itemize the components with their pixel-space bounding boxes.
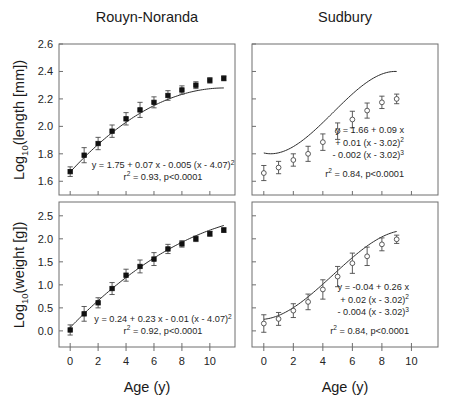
data-point-rouyn-weight-5 bbox=[138, 264, 142, 268]
equation-line-text: + 0.02 (x - 3.02) bbox=[340, 295, 405, 305]
data-point-sudbury-length-4 bbox=[320, 140, 325, 145]
data-point-rouyn-length-0 bbox=[68, 169, 72, 173]
data-point-rouyn-length-3 bbox=[110, 129, 114, 133]
y-tick-label-rouyn-weight-2: 1.0 bbox=[38, 279, 53, 291]
equation-line-text: y = 1.75 + 0.07 x - 0.005 (x - 4.07) bbox=[92, 160, 231, 170]
equation-line-sudbury-length-1: + 0.01 (x - 3.02)2 bbox=[335, 136, 404, 147]
panel-title-rouyn: Rouyn-Noranda bbox=[96, 9, 199, 25]
x-tick-label-rouyn-weight-1: 2 bbox=[95, 355, 101, 367]
x-tick-label-sudbury-weight-1: 2 bbox=[290, 355, 296, 367]
y-label-base: Log bbox=[11, 304, 27, 328]
equation-line-rouyn-weight-0: y = 0.24 + 0.23 x - 0.01 (x - 4.07)2 bbox=[94, 313, 232, 324]
equation-block-sudbury-weight: y = -0.04 + 0.26 x+ 0.02 (x - 3.02)2- 0.… bbox=[330, 282, 409, 336]
data-point-sudbury-weight-4 bbox=[320, 287, 325, 292]
equation-superscript: 2 bbox=[228, 313, 232, 320]
data-point-sudbury-weight-5 bbox=[335, 274, 340, 279]
data-point-sudbury-weight-1 bbox=[276, 317, 281, 322]
figure-panel-grid: Rouyn-NorandaSudburyLog10(length [mm])Lo… bbox=[0, 0, 455, 407]
y-label-rest: (length [mm]) bbox=[11, 60, 27, 145]
data-point-rouyn-length-4 bbox=[124, 117, 128, 121]
data-point-rouyn-weight-7 bbox=[166, 247, 170, 251]
x-tick-label-sudbury-weight-4: 8 bbox=[379, 355, 385, 367]
y-label-subscript: 10 bbox=[19, 293, 30, 304]
equation-line-rouyn-length-1: r2 = 0.93, p<0.0001 bbox=[124, 170, 203, 181]
fit-curve-rouyn-weight bbox=[70, 225, 224, 327]
equation-superscript: 3 bbox=[405, 306, 409, 313]
data-point-sudbury-length-8 bbox=[380, 100, 385, 105]
panel-rouyn-length: 1.61.82.02.22.42.6y = 1.75 + 0.07 x - 0.… bbox=[38, 38, 235, 195]
data-point-sudbury-length-1 bbox=[276, 165, 281, 170]
equation-superscript: 2 bbox=[231, 159, 235, 166]
data-point-rouyn-length-5 bbox=[138, 108, 142, 112]
data-point-rouyn-length-2 bbox=[96, 141, 100, 145]
equation-line-rouyn-weight-1: r2 = 0.92, p<0.0001 bbox=[124, 324, 203, 335]
data-point-rouyn-weight-3 bbox=[110, 286, 114, 290]
data-point-rouyn-weight-10 bbox=[208, 232, 212, 236]
equation-line-sudbury-weight-3: r2 = 0.84, p<0.0001 bbox=[330, 324, 409, 335]
x-tick-label-rouyn-weight-5: 10 bbox=[204, 355, 216, 367]
data-point-rouyn-weight-8 bbox=[180, 242, 184, 246]
equation-line-text: + 0.01 (x - 3.02) bbox=[335, 138, 400, 148]
equation-line-rouyn-length-0: y = 1.75 + 0.07 x - 0.005 (x - 4.07)2 bbox=[92, 159, 235, 170]
equation-line-sudbury-weight-2: - 0.004 (x - 3.02)3 bbox=[337, 306, 409, 317]
equation-line-sudbury-length-2: - 0.002 (x - 3.02)3 bbox=[332, 149, 404, 160]
y-tick-label-rouyn-weight-0: 0.0 bbox=[38, 325, 53, 337]
data-point-sudbury-weight-2 bbox=[291, 308, 296, 313]
y-tick-label-rouyn-weight-4: 2.0 bbox=[38, 233, 53, 245]
equation-block-rouyn-length: y = 1.75 + 0.07 x - 0.005 (x - 4.07)2r2 … bbox=[92, 159, 235, 182]
x-tick-label-sudbury-weight-2: 4 bbox=[320, 355, 326, 367]
equation-line-tail: = 0.93, p<0.0001 bbox=[130, 172, 202, 182]
y-axis-label-rouyn-length: Log10(length [mm]) bbox=[11, 60, 30, 180]
data-point-rouyn-length-9 bbox=[194, 83, 198, 87]
y-label-rest: (weight [g]) bbox=[11, 222, 27, 294]
data-point-rouyn-length-1 bbox=[82, 153, 86, 157]
y-axis-label-group-rouyn-weight: Log10(weight [g]) bbox=[11, 222, 30, 329]
equation-line-text: y = 1.66 + 0.09 x bbox=[336, 125, 405, 135]
data-point-rouyn-length-10 bbox=[208, 78, 212, 82]
equation-superscript: 2 bbox=[400, 136, 404, 143]
x-tick-label-rouyn-weight-3: 6 bbox=[151, 355, 157, 367]
x-axis-title-left: Age (y) bbox=[124, 379, 171, 395]
equation-line-tail: = 0.92, p<0.0001 bbox=[130, 326, 202, 336]
y-tick-label-rouyn-length-1: 1.8 bbox=[38, 148, 53, 160]
y-tick-label-rouyn-weight-1: 0.5 bbox=[38, 302, 53, 314]
data-point-sudbury-length-7 bbox=[365, 108, 370, 113]
data-point-rouyn-length-7 bbox=[166, 93, 170, 97]
data-point-sudbury-weight-8 bbox=[380, 242, 385, 247]
equation-superscript: 3 bbox=[400, 149, 404, 156]
equation-line-tail: = 0.84, p<0.0001 bbox=[337, 326, 409, 336]
equation-line-text: y = 0.24 + 0.23 x - 0.01 (x - 4.07) bbox=[94, 314, 228, 324]
equation-line-sudbury-length-3: r2 = 0.84, p<0.0001 bbox=[325, 167, 404, 178]
equation-line-text: y = -0.04 + 0.26 x bbox=[337, 282, 409, 292]
equation-superscript: 2 bbox=[405, 293, 409, 300]
x-tick-label-rouyn-weight-0: 0 bbox=[67, 355, 73, 367]
equation-line-tail: = 0.84, p<0.0001 bbox=[332, 169, 404, 179]
y-tick-label-rouyn-length-4: 2.4 bbox=[38, 65, 53, 77]
data-point-sudbury-weight-7 bbox=[365, 254, 370, 259]
data-point-rouyn-weight-0 bbox=[68, 328, 72, 332]
data-point-sudbury-weight-3 bbox=[306, 299, 311, 304]
data-point-rouyn-weight-11 bbox=[222, 228, 226, 232]
panel-title-sudbury: Sudbury bbox=[318, 9, 373, 25]
panel-rouyn-weight: 0.00.51.01.52.02.50246810y = 0.24 + 0.23… bbox=[38, 202, 235, 367]
y-tick-label-rouyn-length-0: 1.6 bbox=[38, 175, 53, 187]
x-tick-label-rouyn-weight-2: 4 bbox=[123, 355, 129, 367]
y-label-base: Log bbox=[11, 156, 27, 180]
y-axis-label-rouyn-weight: Log10(weight [g]) bbox=[11, 222, 30, 329]
y-label-subscript: 10 bbox=[19, 145, 30, 156]
data-point-sudbury-weight-0 bbox=[261, 321, 266, 326]
data-point-rouyn-length-8 bbox=[180, 88, 184, 92]
data-point-rouyn-weight-2 bbox=[96, 301, 100, 305]
data-point-rouyn-weight-1 bbox=[82, 312, 86, 316]
data-point-sudbury-length-2 bbox=[291, 158, 296, 163]
y-axis-label-group-rouyn-length: Log10(length [mm]) bbox=[11, 60, 30, 180]
x-axis-title-right: Age (y) bbox=[322, 379, 369, 395]
y-tick-label-rouyn-length-3: 2.2 bbox=[38, 93, 53, 105]
y-tick-label-rouyn-weight-5: 2.5 bbox=[38, 210, 53, 222]
data-point-sudbury-length-0 bbox=[261, 171, 266, 176]
data-point-sudbury-length-6 bbox=[350, 117, 355, 122]
equation-line-sudbury-weight-1: + 0.02 (x - 3.02)2 bbox=[340, 293, 409, 304]
equation-line-sudbury-length-0: y = 1.66 + 0.09 x bbox=[336, 125, 405, 135]
data-point-sudbury-weight-6 bbox=[350, 261, 355, 266]
x-tick-label-sudbury-weight-3: 6 bbox=[349, 355, 355, 367]
